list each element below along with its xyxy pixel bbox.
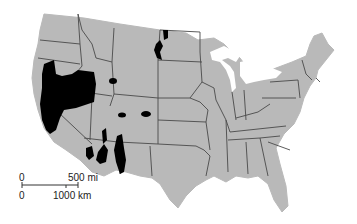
wyoming-patch — [109, 78, 117, 84]
kansas-patch — [141, 111, 151, 117]
us-map — [0, 0, 357, 224]
colorado-patch — [118, 113, 126, 118]
